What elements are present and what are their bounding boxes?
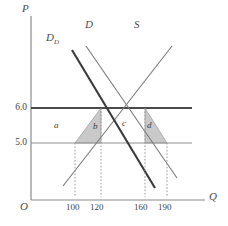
region-label-b: b <box>93 122 98 131</box>
curve-label-DD: DD <box>46 32 59 46</box>
y-axis-label: P <box>22 3 29 14</box>
y-tick-label-5: 5.0 <box>5 138 27 148</box>
curve-label-S: S <box>134 19 140 30</box>
demand-curve-DD <box>72 50 155 188</box>
curve-label-D: D <box>85 19 93 30</box>
x-tick-label-120: 120 <box>90 203 104 212</box>
x-tick-label-190: 190 <box>158 203 172 212</box>
x-tick-label-160: 160 <box>134 203 148 212</box>
region-label-d: d <box>147 121 152 130</box>
plot-canvas <box>0 0 228 226</box>
y-tick-label-6: 6.0 <box>5 103 27 113</box>
supply-curve-S <box>63 46 172 186</box>
region-label-a: a <box>54 121 59 130</box>
x-tick-label-100: 100 <box>66 203 80 212</box>
supply-demand-figure: P Q O DD D S 6.0 5.0 100 120 160 190 a b… <box>0 0 228 226</box>
x-axis-label: Q <box>209 191 217 202</box>
origin-label: O <box>20 201 28 212</box>
region-label-c: c <box>122 119 126 128</box>
